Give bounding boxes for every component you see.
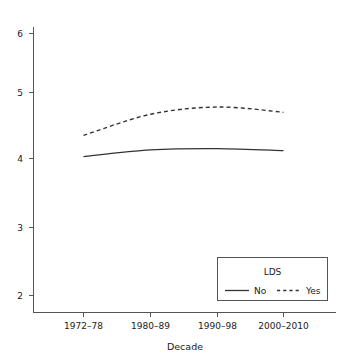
y-tick-label-5: 5 — [17, 88, 23, 98]
x-axis-title: Decade — [167, 341, 203, 352]
y-tick-label-3: 3 — [17, 223, 23, 233]
y-tick-label-4: 4 — [17, 154, 23, 164]
x-tick-label-4: 2000–2010 — [258, 321, 309, 331]
legend-label-yes: Yes — [305, 286, 321, 296]
legend-label-no: No — [254, 286, 267, 296]
x-axis-ticks — [84, 313, 284, 318]
y-tick-label-2: 2 — [17, 291, 23, 301]
x-tick-label-2: 1980–89 — [131, 321, 170, 331]
x-tick-label-3: 1990–98 — [198, 321, 237, 331]
series-line-no — [84, 149, 284, 157]
legend-title: LDS — [264, 267, 282, 277]
y-tick-label-6: 6 — [17, 29, 23, 39]
series-line-yes — [84, 107, 284, 135]
legend[interactable]: LDS No Yes — [218, 258, 328, 301]
chart-figure: 6 5 4 3 2 1972–78 1980–89 1990–98 2000–2… — [0, 0, 343, 359]
line-chart-canvas: 6 5 4 3 2 1972–78 1980–89 1990–98 2000–2… — [0, 0, 343, 359]
x-tick-label-1: 1972–78 — [64, 321, 103, 331]
y-axis-ticks — [29, 34, 34, 296]
